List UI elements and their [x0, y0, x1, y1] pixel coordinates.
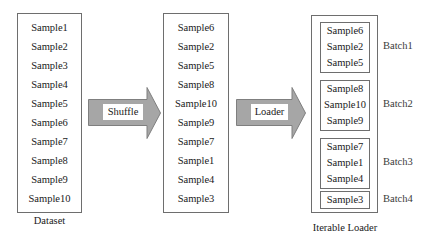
- shuffled-sample: Sample4: [164, 170, 228, 189]
- dataset-sample: Sample8: [18, 151, 81, 170]
- batch-box-4: Sample3: [320, 191, 370, 209]
- dataset-sample: Sample10: [18, 189, 81, 208]
- shuffle-label: Shuffle: [103, 104, 143, 120]
- batch-sample: Sample9: [321, 113, 369, 129]
- batch-sample: Sample1: [321, 155, 369, 171]
- batch-sample: Sample3: [321, 192, 369, 208]
- shuffled-sample: Sample5: [164, 56, 228, 75]
- shuffled-box: Sample6 Sample2 Sample5 Sample8 Sample10…: [163, 13, 229, 213]
- batch-sample: Sample2: [321, 39, 369, 55]
- iterable-loader-caption: Iterable Loader: [300, 222, 390, 233]
- batch-sample: Sample8: [321, 81, 369, 97]
- shuffled-sample: Sample1: [164, 151, 228, 170]
- iterable-loader-box: Sample6 Sample2 Sample5 Sample8 Sample10…: [311, 15, 378, 213]
- shuffled-sample: Sample2: [164, 37, 228, 56]
- dataset-caption: Dataset: [17, 215, 82, 226]
- batch-sample: Sample5: [321, 55, 369, 71]
- dataset-sample: Sample2: [18, 37, 81, 56]
- batch-sample: Sample6: [321, 23, 369, 39]
- dataset-sample: Sample7: [18, 132, 81, 151]
- shuffled-sample: Sample7: [164, 132, 228, 151]
- dataset-sample: Sample9: [18, 170, 81, 189]
- loader-label: Loader: [251, 104, 288, 120]
- dataset-sample: Sample1: [18, 18, 81, 37]
- batch-label-3: Batch3: [383, 155, 413, 169]
- dataset-sample: Sample6: [18, 113, 81, 132]
- batch-label-1: Batch1: [383, 39, 413, 53]
- dataset-sample: Sample4: [18, 75, 81, 94]
- dataset-sample: Sample3: [18, 56, 81, 75]
- batch-sample: Sample7: [321, 139, 369, 155]
- shuffled-sample: Sample6: [164, 18, 228, 37]
- batch-label-2: Batch2: [383, 97, 413, 111]
- shuffled-sample: Sample10: [164, 94, 228, 113]
- batch-sample: Sample10: [321, 97, 369, 113]
- batch-sample: Sample4: [321, 171, 369, 187]
- batch-box-3: Sample7 Sample1 Sample4: [320, 138, 370, 189]
- dataset-sample-list: Sample1 Sample2 Sample3 Sample4 Sample5 …: [18, 18, 81, 208]
- shuffle-arrow: Shuffle: [88, 87, 162, 139]
- shuffled-sample-list: Sample6 Sample2 Sample5 Sample8 Sample10…: [164, 18, 228, 208]
- batch-label-4: Batch4: [383, 192, 413, 206]
- batch-box-1: Sample6 Sample2 Sample5: [320, 22, 370, 73]
- dataset-sample: Sample5: [18, 94, 81, 113]
- shuffled-sample: Sample9: [164, 113, 228, 132]
- shuffled-sample: Sample8: [164, 75, 228, 94]
- shuffled-sample: Sample3: [164, 189, 228, 208]
- batch-box-2: Sample8 Sample10 Sample9: [320, 80, 370, 131]
- dataset-box: Sample1 Sample2 Sample3 Sample4 Sample5 …: [17, 13, 82, 213]
- loader-arrow: Loader: [236, 87, 307, 139]
